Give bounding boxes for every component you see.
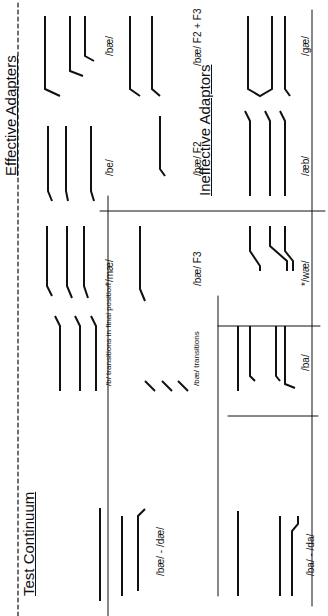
test-heading: Test Continuum (20, 492, 37, 596)
panel-e-label: /bæ/ F2 + F3 (192, 8, 203, 66)
panel-k-label: */wæ/ (300, 260, 311, 286)
panel-i-label: /gæ/ (300, 36, 311, 56)
rotated-figure: Effective Adapters Ineffective Adaptors … (0, 0, 328, 616)
effective-heading: Effective Adapters (2, 55, 19, 176)
figure-lines (0, 0, 328, 616)
test-2-label: /ba/ - /da/ (305, 534, 316, 576)
panel-b-label: /be/ (104, 159, 115, 176)
panel-j-label: /æb/ (300, 156, 311, 176)
panel-f-label: /bæ/ F2 (192, 142, 203, 176)
panel-d-label: /b/ transitions in final position (104, 283, 113, 386)
ineffective-heading: Ineffective Adaptors (196, 65, 213, 196)
panel-a-label: /bæ/ (104, 36, 115, 56)
test-1-label: /bæ/ - /dæ/ (155, 527, 166, 576)
panel-h-label: /bæ/ transitions (192, 331, 201, 386)
panel-c-label: */mæ/ (104, 259, 115, 286)
panel-g-label: /bæ/ F3 (192, 252, 203, 286)
panel-l-label: /ba/ (300, 354, 311, 371)
